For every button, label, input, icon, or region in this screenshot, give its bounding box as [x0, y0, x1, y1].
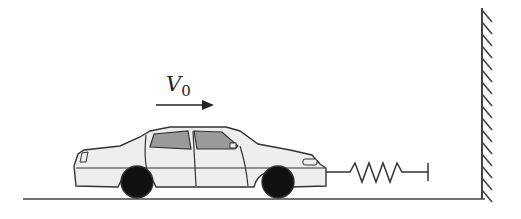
- rear-window: [150, 131, 191, 149]
- side-mirror: [230, 143, 236, 148]
- fixed-wall: [482, 8, 492, 202]
- front-tire: [262, 166, 294, 198]
- wall-hatching: [482, 10, 492, 202]
- velocity-label: V0: [166, 72, 191, 100]
- rear-tire: [121, 166, 153, 198]
- headlight: [303, 159, 317, 165]
- velocity-symbol: V: [166, 72, 181, 96]
- car: [74, 127, 326, 198]
- spring: [326, 163, 428, 182]
- velocity-arrow: [156, 100, 214, 110]
- velocity-subscript: 0: [181, 82, 191, 100]
- car-spring-wall-diagram: [0, 0, 521, 219]
